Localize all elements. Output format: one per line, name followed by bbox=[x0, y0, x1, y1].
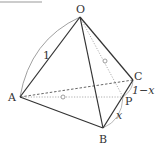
edge-oc bbox=[80, 17, 133, 80]
label-bp-x: x bbox=[116, 109, 123, 122]
label-edge-length: 1 bbox=[43, 49, 50, 62]
label-o: O bbox=[76, 3, 85, 16]
equal-mark-ap bbox=[61, 95, 65, 99]
label-b: B bbox=[99, 133, 107, 146]
edge-ob bbox=[80, 17, 103, 128]
tetrahedron-diagram: O A B C P 1 x 1−x bbox=[0, 0, 160, 151]
equal-mark-op bbox=[103, 59, 107, 63]
label-pc-1-minus-x: 1−x bbox=[132, 84, 155, 97]
label-c: C bbox=[134, 70, 142, 83]
edge-ac-hidden bbox=[20, 80, 133, 97]
label-a: A bbox=[7, 91, 17, 104]
edge-ab bbox=[20, 97, 103, 128]
edge-oa bbox=[20, 17, 80, 97]
